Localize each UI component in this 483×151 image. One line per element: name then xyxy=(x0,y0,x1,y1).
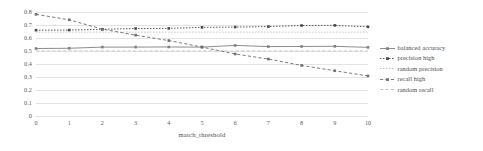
y-axis-tick-label: 0.6 xyxy=(24,35,32,41)
data-point-marker xyxy=(267,58,270,61)
data-point-marker xyxy=(68,47,71,50)
data-point-marker xyxy=(168,46,171,49)
legend-swatch-icon xyxy=(380,54,395,63)
data-point-marker xyxy=(367,75,370,78)
data-point-marker xyxy=(68,19,71,22)
x-axis-tick-label: 2 xyxy=(101,120,104,126)
data-point-marker xyxy=(300,45,303,48)
data-point-marker xyxy=(267,45,270,48)
series-recall-high xyxy=(35,13,370,77)
x-axis-tick-label: 3 xyxy=(134,120,137,126)
data-point-marker xyxy=(134,34,137,37)
data-point-marker xyxy=(68,29,71,32)
x-axis-tick-label: 1 xyxy=(68,120,71,126)
x-axis-title: match_threshold xyxy=(36,131,368,138)
chart-container: 00.10.20.30.40.50.60.70.8 012345678910 m… xyxy=(0,0,483,151)
data-point-marker xyxy=(101,46,104,49)
data-point-marker xyxy=(101,28,104,31)
data-point-marker xyxy=(334,24,337,27)
data-point-marker xyxy=(300,24,303,27)
y-axis-tick-label: 0.5 xyxy=(24,48,32,54)
x-axis-tick-label: 6 xyxy=(234,120,237,126)
x-axis-tick-label: 7 xyxy=(267,120,270,126)
series-layer xyxy=(36,12,368,116)
legend-item-balanced-accuracy[interactable]: balanced accuracy xyxy=(380,43,483,53)
data-point-marker xyxy=(35,13,38,16)
y-axis-tick-label: 0.2 xyxy=(24,87,32,93)
chart-legend: balanced accuracyprecision highrandom pr… xyxy=(380,43,483,95)
data-point-marker xyxy=(334,69,337,72)
data-point-marker xyxy=(267,25,270,28)
data-point-marker xyxy=(168,39,171,42)
data-point-marker xyxy=(234,26,237,29)
y-axis-tick-label: 0.3 xyxy=(24,74,32,80)
legend-item-random-recall[interactable]: random recall xyxy=(380,85,483,95)
legend-item-label: random recall xyxy=(398,87,434,93)
y-axis-tick-label: 0.4 xyxy=(24,61,32,67)
legend-item-random-precision[interactable]: random precision xyxy=(380,64,483,74)
legend-swatch-icon xyxy=(380,44,395,53)
legend-item-label: precision high xyxy=(398,55,435,61)
legend-swatch-icon xyxy=(380,75,395,84)
gridline xyxy=(36,116,368,117)
legend-item-label: balanced accuracy xyxy=(398,45,446,51)
y-axis-tick-label: 0 xyxy=(29,113,32,119)
legend-swatch-icon xyxy=(380,64,395,73)
data-point-marker xyxy=(334,45,337,48)
x-axis-tick-label: 5 xyxy=(200,120,203,126)
data-point-marker xyxy=(134,27,137,30)
data-point-marker xyxy=(300,64,303,67)
data-point-marker xyxy=(168,27,171,30)
x-axis-tick-label: 8 xyxy=(300,120,303,126)
series-line xyxy=(36,14,368,76)
data-point-marker xyxy=(234,44,237,47)
data-point-marker xyxy=(35,29,38,32)
y-axis-tick-label: 0.8 xyxy=(24,9,32,15)
legend-item-recall-high[interactable]: recall high xyxy=(380,74,483,84)
legend-swatch-icon xyxy=(380,85,395,94)
legend-item-label: random precision xyxy=(398,66,443,72)
legend-item-label: recall high xyxy=(398,76,426,82)
data-point-marker xyxy=(367,46,370,49)
y-axis-tick-label: 0.7 xyxy=(24,22,32,28)
legend-item-precision-high[interactable]: precision high xyxy=(380,53,483,63)
x-axis-tick-label: 0 xyxy=(34,120,37,126)
data-point-marker xyxy=(234,53,237,56)
series-precision-high xyxy=(35,24,370,31)
data-point-marker xyxy=(201,46,204,49)
data-point-marker xyxy=(35,47,38,50)
data-point-marker xyxy=(201,26,204,29)
data-point-marker xyxy=(367,26,370,29)
plot-area: 00.10.20.30.40.50.60.70.8 012345678910 xyxy=(36,12,368,116)
x-axis-tick-label: 9 xyxy=(333,120,336,126)
x-axis-tick-label: 4 xyxy=(167,120,170,126)
data-point-marker xyxy=(134,46,137,49)
y-axis-tick-label: 0.1 xyxy=(24,100,32,106)
x-axis-tick-label: 10 xyxy=(365,120,371,126)
